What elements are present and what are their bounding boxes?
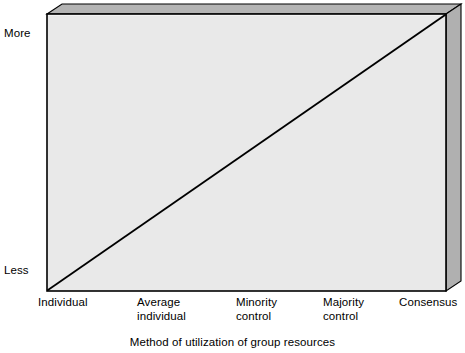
x-tick-minority-control-line1: Minority xyxy=(236,296,277,308)
slab-top-face xyxy=(47,4,461,14)
x-tick-consensus-line1: Consensus xyxy=(399,296,457,308)
x-tick-majority-control-line2: control xyxy=(323,310,364,324)
y-axis-label-more: More xyxy=(4,27,44,40)
x-tick-average-individual-line1: Average xyxy=(137,296,180,308)
x-tick-individual-line1: Individual xyxy=(38,296,88,308)
group-resource-utilization-figure: More Less Individual Average individual … xyxy=(0,0,465,353)
x-tick-minority-control: Minority control xyxy=(236,296,277,323)
x-tick-average-individual-line2: individual xyxy=(137,310,186,324)
x-tick-average-individual: Average individual xyxy=(137,296,186,323)
x-tick-majority-control-line1: Majority xyxy=(323,296,364,308)
x-tick-majority-control: Majority control xyxy=(323,296,364,323)
x-axis-tick-labels: Individual Average individual Minority c… xyxy=(0,296,465,330)
slab-right-face xyxy=(446,4,461,291)
x-tick-minority-control-line2: control xyxy=(236,310,277,324)
x-axis-title: Method of utilization of group resources xyxy=(0,336,465,348)
chart-plot-area xyxy=(0,0,465,300)
x-tick-consensus: Consensus xyxy=(399,296,457,310)
y-axis-label-less: Less xyxy=(4,264,44,277)
x-tick-individual: Individual xyxy=(38,296,88,310)
